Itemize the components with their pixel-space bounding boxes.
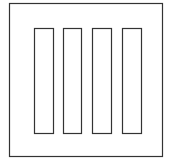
bars-group [35, 29, 142, 134]
vertical-bar-1 [35, 29, 54, 134]
vertical-bar-2 [64, 29, 82, 134]
vertical-bar-4 [123, 29, 142, 134]
diagram-canvas [0, 0, 169, 165]
vertical-bar-3 [93, 29, 112, 134]
